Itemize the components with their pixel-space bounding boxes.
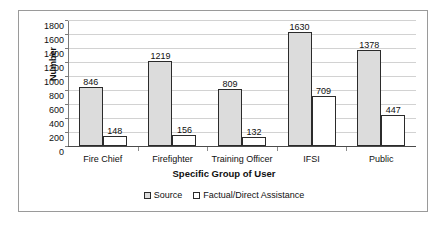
bar-value-label: 156 (177, 125, 192, 135)
gridline (68, 34, 416, 35)
bar-value-label: 709 (316, 86, 331, 96)
x-axis-category-label: Training Officer (211, 154, 272, 164)
legend-swatch-icon (144, 192, 151, 199)
legend-item-1[interactable]: Factual/Direct Assistance (193, 190, 304, 200)
bar-value-label: 132 (246, 127, 261, 137)
x-axis-tick-mark (346, 147, 347, 151)
x-axis-tick-mark (138, 147, 139, 151)
bar-value-label: 1378 (359, 40, 379, 50)
bar-value-label: 809 (222, 79, 237, 89)
x-axis-tick-mark (207, 147, 208, 151)
chart-frame: Number 020040060080010001200140016001800… (18, 10, 428, 212)
bar-source-1[interactable]: 1219 (148, 61, 172, 146)
plot-area: 020040060080010001200140016001800 846148… (68, 21, 416, 147)
bar-source-3[interactable]: 1630 (288, 32, 312, 146)
y-axis-line (68, 21, 69, 147)
x-axis-category-label: Firefighter (152, 154, 193, 164)
bar-source-2[interactable]: 809 (218, 89, 242, 146)
x-axis-line (68, 146, 416, 147)
bar-factual-1[interactable]: 156 (172, 135, 196, 146)
bar-factual-4[interactable]: 447 (381, 115, 405, 146)
bar-value-label: 1630 (290, 22, 310, 32)
legend-label: Factual/Direct Assistance (203, 190, 304, 200)
bar-factual-3[interactable]: 709 (312, 96, 336, 146)
legend-swatch-icon (193, 192, 200, 199)
bar-value-label: 1219 (150, 51, 170, 61)
chart-legend: SourceFactual/Direct Assistance (19, 190, 429, 200)
x-axis-title: Specific Group of User (19, 168, 429, 179)
x-axis-category-label: Fire Chief (83, 154, 122, 164)
bar-factual-0[interactable]: 148 (103, 136, 127, 146)
bar-value-label: 846 (83, 77, 98, 87)
bar-value-label: 447 (386, 105, 401, 115)
bar-source-0[interactable]: 846 (79, 87, 103, 146)
gridline (68, 20, 416, 21)
x-axis-category-label: Public (369, 154, 394, 164)
x-axis-tick-mark (277, 147, 278, 151)
x-axis-category-label: IFSI (303, 154, 320, 164)
legend-item-0[interactable]: Source (144, 190, 183, 200)
bar-value-label: 148 (107, 126, 122, 136)
legend-label: Source (154, 190, 183, 200)
bar-source-4[interactable]: 1378 (357, 50, 381, 146)
bar-factual-2[interactable]: 132 (242, 137, 266, 146)
